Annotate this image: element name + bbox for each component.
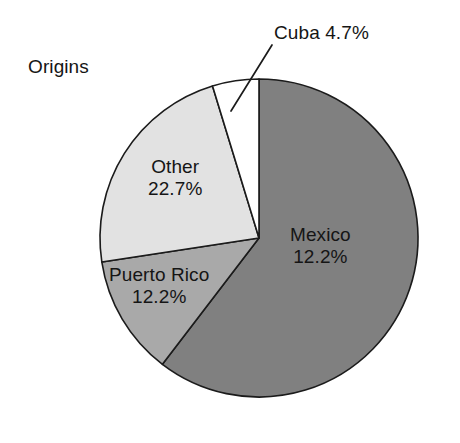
- pie-label-other-name: Other: [148, 156, 202, 178]
- pie-label-cuba: Cuba 4.7%: [274, 22, 369, 44]
- pie-label-puerto-rico-value: 12.2%: [109, 286, 209, 308]
- pie-chart-figure: Origins Cuba 4.7% Other 22.7% Puerto Ric…: [0, 0, 460, 443]
- pie-label-mexico-value: 12.2%: [290, 246, 351, 268]
- pie-label-puerto-rico: Puerto Rico 12.2%: [109, 264, 209, 309]
- pie-label-other: Other 22.7%: [148, 156, 202, 201]
- pie-label-mexico: Mexico 12.2%: [290, 224, 351, 269]
- chart-title-origins: Origins: [28, 56, 89, 78]
- pie-label-other-value: 22.7%: [148, 178, 202, 200]
- pie-label-puerto-rico-name: Puerto Rico: [109, 264, 209, 286]
- pie-label-mexico-name: Mexico: [290, 224, 351, 246]
